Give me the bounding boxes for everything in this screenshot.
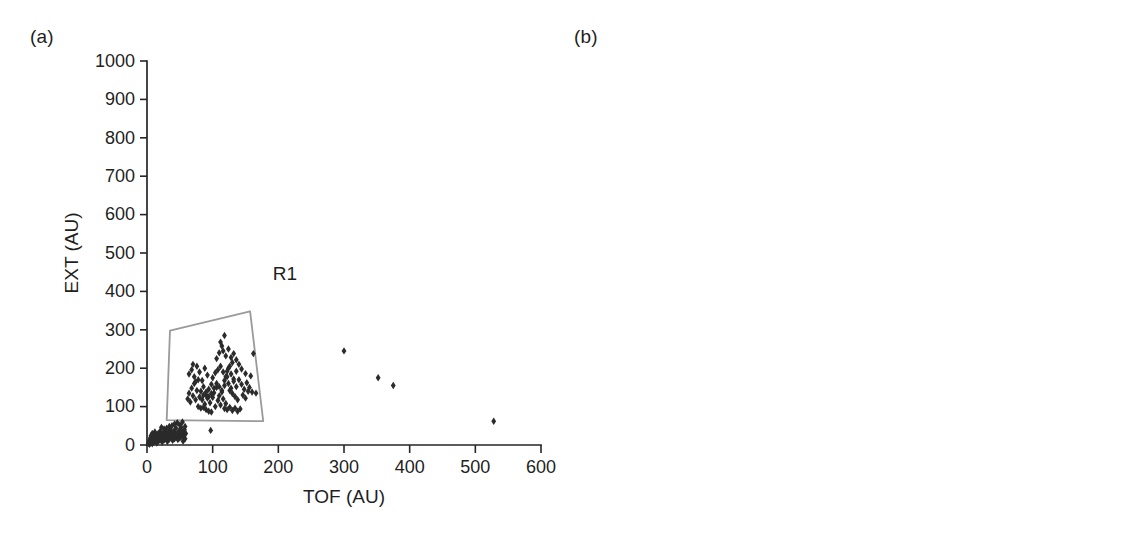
panel-b-scatter-plot: 0100200300400500600700800900100001002003… [564,0,1128,534]
data-points [146,332,496,448]
data-point [342,347,347,354]
data-point [194,387,199,394]
x-tick-label: 600 [526,457,556,477]
y-tick-label: 300 [105,320,135,340]
y-tick-label: 500 [105,243,135,263]
panel-a: (a) 010020030040050060070080090010000100… [0,0,564,534]
data-point [213,403,218,410]
x-tick-label: 0 [142,457,152,477]
data-point [248,372,253,379]
data-point [210,374,215,381]
x-tick-label: 300 [329,457,359,477]
data-point [197,368,202,375]
data-point [234,383,239,390]
y-tick-label: 1000 [95,51,135,71]
x-tick-label: 400 [395,457,425,477]
y-tick-label: 400 [105,281,135,301]
data-point [223,352,228,359]
data-point [217,349,222,356]
y-axis-title: EXT (AU) [61,213,82,294]
y-tick-label: 800 [105,128,135,148]
y-tick-label: 700 [105,166,135,186]
data-point [254,389,259,396]
data-point [376,374,381,381]
y-tick-label: 100 [105,396,135,416]
figure-container: (a) 010020030040050060070080090010000100… [0,0,1128,534]
data-point [200,377,205,384]
y-tick-label: 200 [105,358,135,378]
x-axis-ticks: 0100200300400500600 [142,445,556,477]
x-axis-title: TOF (AU) [303,486,385,507]
data-point [208,427,213,434]
x-tick-label: 500 [460,457,490,477]
data-point [242,386,247,393]
data-point [214,355,219,362]
plot-axes [147,61,541,445]
data-point [202,365,207,372]
x-tick-label: 200 [263,457,293,477]
panel-b: (b) 010020030040050060070080090010000100… [564,0,1128,534]
y-tick-label: 600 [105,204,135,224]
x-tick-label: 100 [198,457,228,477]
data-point [234,368,239,375]
panel-a-scatter-plot: 0100200300400500600700800900100001002003… [0,0,564,534]
data-point [226,345,231,352]
data-point [243,370,248,377]
data-point [491,417,496,424]
gate-label-r1: R1 [273,263,297,284]
data-point [391,382,396,389]
data-point [194,363,199,370]
y-tick-label: 900 [105,89,135,109]
data-point [222,332,227,339]
data-point [205,371,210,378]
y-tick-label: 0 [125,435,135,455]
y-axis-ticks: 01002003004005006007008009001000 [95,51,147,455]
